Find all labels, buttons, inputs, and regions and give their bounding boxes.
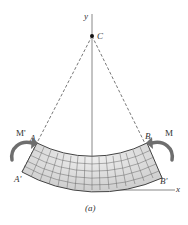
figure-caption: (a)	[85, 203, 96, 213]
moment-label-left: M'	[16, 128, 26, 138]
label-B-prime: B'	[160, 176, 168, 186]
x-axis-label: x	[175, 184, 180, 194]
curved-arrow-icon	[152, 142, 172, 160]
center-point-label: C	[97, 31, 104, 41]
label-A-prime: A'	[13, 174, 22, 184]
pure-bending-diagram: y x C	[0, 0, 188, 225]
center-point	[90, 34, 94, 38]
curved-arrow-icon	[12, 142, 32, 160]
y-axis-label: y	[83, 11, 88, 21]
moment-label-right: M	[165, 128, 173, 138]
